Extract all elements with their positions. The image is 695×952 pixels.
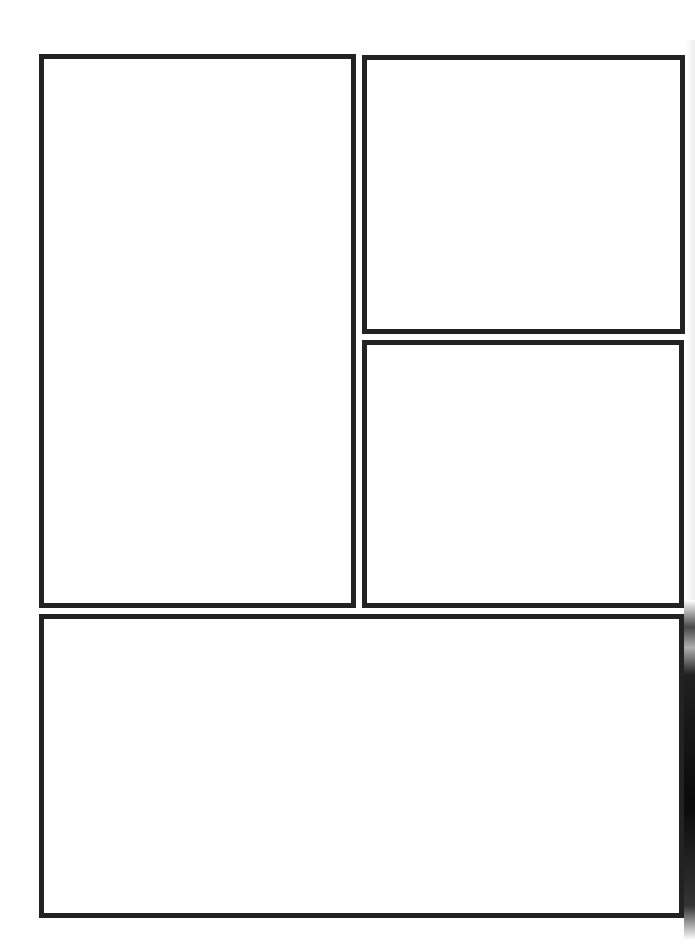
page-edge-shadow: [684, 600, 695, 940]
panel-top-right: [362, 55, 685, 334]
page-edge-highlight: [686, 40, 695, 600]
panel-middle-right: [362, 340, 684, 608]
panel-bottom-wide: [39, 614, 684, 918]
panel-left-tall: [39, 54, 356, 608]
comic-page-template: [0, 0, 695, 952]
